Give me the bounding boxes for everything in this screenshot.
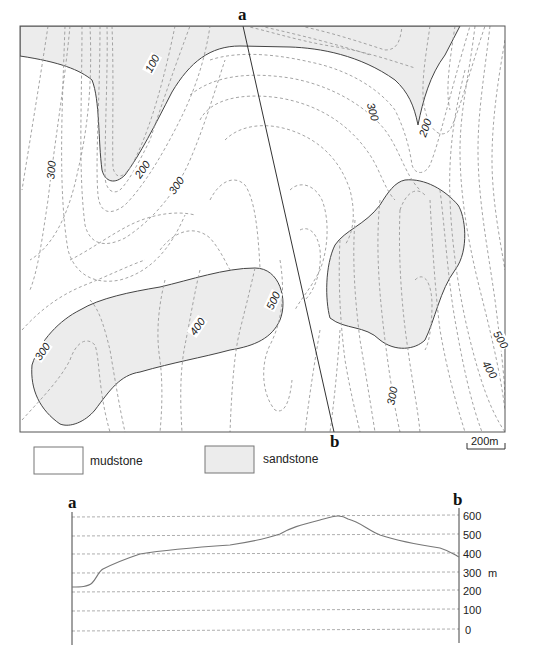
topographic-profile — [72, 516, 459, 587]
y-tick-600: 600 — [463, 510, 481, 522]
y-axis-unit: m — [488, 567, 497, 579]
y-tick-100: 100 — [463, 604, 481, 616]
y-tick-300: 300 — [463, 567, 481, 579]
y-tick-0: 0 — [465, 624, 471, 636]
sandstone-outcrop-west — [32, 268, 283, 425]
section-line-a-b — [243, 26, 334, 432]
section-label-b: b — [330, 432, 339, 451]
cross-section: a b 600 500 400 300 200 100 0 m — [68, 490, 497, 645]
legend: mudstone sandstone — [34, 446, 319, 474]
geological-map-figure: a b 100300200300300200300400500500400300… — [0, 0, 541, 660]
cross-section-gridlines — [72, 515, 459, 631]
y-tick-200: 200 — [463, 585, 481, 597]
scale-bar: 200m — [467, 435, 505, 449]
section-label-a: a — [238, 5, 247, 24]
contour-label: 300 — [385, 385, 400, 406]
legend-swatch-mudstone — [34, 447, 83, 474]
legend-label-mudstone: mudstone — [90, 454, 143, 468]
contour-label: 400 — [480, 359, 500, 382]
y-tick-400: 400 — [463, 548, 481, 560]
sandstone-outcrop-east — [327, 180, 465, 348]
contour-label: 300 — [44, 159, 58, 179]
cross-section-label-a: a — [68, 493, 77, 512]
scale-bar-label: 200m — [471, 435, 499, 447]
legend-label-sandstone: sandstone — [263, 452, 319, 466]
legend-swatch-sandstone — [205, 446, 254, 473]
cross-section-y-ticks: 600 500 400 300 200 100 0 m — [463, 510, 497, 636]
sandstone-outcrop-north — [20, 26, 460, 181]
contour-label: 300 — [166, 174, 187, 197]
cross-section-label-b: b — [453, 490, 462, 509]
y-tick-500: 500 — [463, 529, 481, 541]
geological-map: a b 100300200300300200300400500500400300… — [20, 5, 511, 451]
